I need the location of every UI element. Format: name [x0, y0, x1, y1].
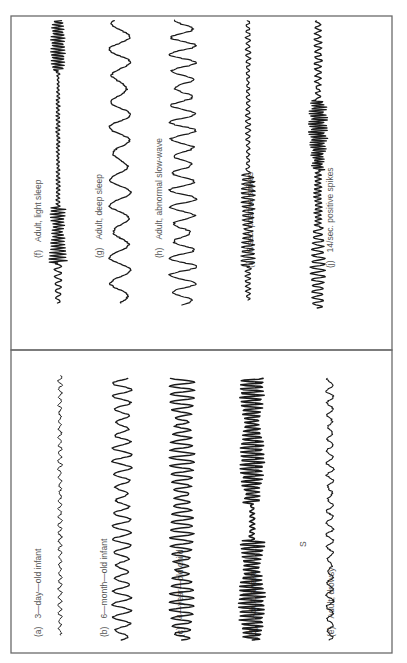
label-f: (f)Adult, light sleep — [33, 179, 43, 258]
label-b: (b)6—month—old infant — [99, 538, 109, 637]
trace-g — [109, 21, 131, 303]
trace-f — [49, 21, 67, 303]
label-j: (j)14/sec. positive spikes — [325, 167, 335, 268]
label-h: (h)Adult, abnormal slow-wave — [154, 138, 164, 258]
marker-s: S — [298, 541, 308, 547]
trace-a — [58, 376, 63, 635]
label-a: (a)3—day—old infant — [33, 548, 43, 637]
eeg-traces — [49, 20, 334, 640]
eeg-figure: (f)Adult, light sleep (g)Adult, deep sle… — [0, 0, 407, 663]
trace-i — [241, 21, 255, 300]
trace-d — [239, 378, 266, 640]
trace-h — [169, 20, 197, 305]
label-g: (g)Adult, deep sleep — [94, 174, 104, 258]
trace-b — [112, 378, 133, 640]
trace-j — [309, 21, 328, 308]
label-e: (e)Adult, drowsy — [326, 567, 336, 637]
